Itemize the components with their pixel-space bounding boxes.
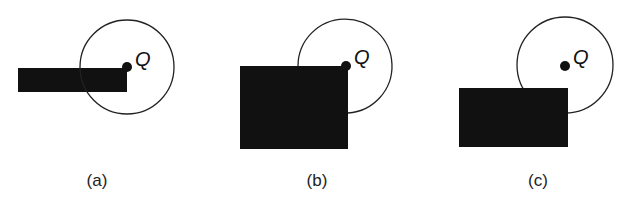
point-q-dot bbox=[560, 61, 570, 71]
panel-label: (b) bbox=[307, 171, 328, 190]
point-q-label: Q bbox=[135, 48, 151, 70]
panel-c: Q (c) bbox=[459, 17, 613, 190]
figure-canvas: Q (a) Q (b) Q (c) bbox=[0, 0, 633, 200]
point-q-label: Q bbox=[573, 46, 589, 68]
panel-label: (a) bbox=[87, 171, 108, 190]
point-q-dot bbox=[341, 61, 351, 71]
panel-a: Q (a) bbox=[18, 20, 174, 190]
obstacle-rect bbox=[18, 68, 127, 92]
point-q-dot bbox=[122, 62, 132, 72]
obstacle-rect bbox=[459, 88, 568, 147]
obstacle-rect bbox=[240, 66, 348, 149]
panel-label: (c) bbox=[528, 171, 548, 190]
panel-b: Q (b) bbox=[240, 19, 392, 190]
point-q-label: Q bbox=[354, 46, 370, 68]
